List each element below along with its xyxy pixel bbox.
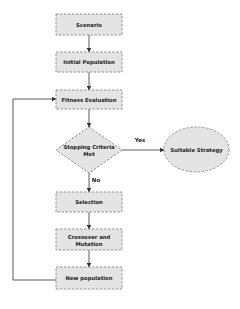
node-fitness-evaluation: Fitness Evaluation (56, 90, 122, 109)
node-scenario: Scenario (56, 14, 122, 35)
edge-loop-new-population-to-fitness (13, 99, 56, 280)
node-suitable-strategy: Suitable Strategy (164, 127, 229, 172)
node-label: Initial Population (63, 59, 115, 66)
flowchart: Scenario Initial Population Fitness Eval… (0, 0, 240, 309)
node-label-line2: Mutation (76, 241, 103, 247)
edge-label-no: No (92, 177, 101, 183)
node-crossover-mutation: Crossover and Mutation (56, 229, 122, 250)
node-initial-population: Initial Population (56, 52, 122, 72)
node-label: Suitable Strategy (170, 147, 223, 154)
node-label: Selection (75, 199, 103, 205)
node-selection: Selection (56, 192, 122, 212)
node-label-line2: Met (83, 151, 95, 157)
node-label: New population (66, 275, 113, 282)
edge-label-yes: Yes (134, 137, 146, 143)
node-label-line1: Crossover and (68, 234, 111, 240)
node-new-population: New population (56, 267, 122, 289)
node-stopping-criteria-decision: Stopping Criteria Met (56, 127, 122, 173)
node-label: Scenario (76, 22, 102, 28)
node-label: Fitness Evaluation (61, 97, 116, 103)
